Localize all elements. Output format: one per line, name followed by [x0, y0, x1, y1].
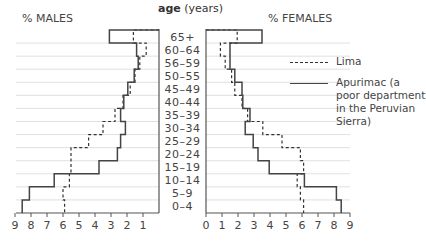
- age-group-label: 15–19: [165, 161, 201, 174]
- legend-item-apurimac: Apurimac (a poor department in the Peruv…: [290, 76, 426, 128]
- x-tick-label: 8: [331, 219, 338, 232]
- age-group-label: 60–64: [165, 44, 201, 57]
- x-tick-label: 4: [267, 219, 274, 232]
- legend: Lima Apurimac (a poor department in the …: [290, 55, 426, 136]
- age-group-label: 0–4: [172, 200, 193, 213]
- x-tick-label: 7: [315, 219, 322, 232]
- x-tick-label: 6: [60, 219, 67, 232]
- age-group-label: 25–29: [165, 135, 201, 148]
- age-group-label: 20–24: [165, 148, 201, 161]
- age-axis-title-bold: age: [158, 2, 181, 15]
- age-group-label: 30–34: [165, 122, 201, 135]
- x-tick-label: 3: [108, 219, 115, 232]
- age-group-label: 35–39: [165, 109, 201, 122]
- dashed-line-icon: [290, 55, 328, 63]
- x-tick-label: 2: [235, 219, 242, 232]
- females-axis-title: % FEMALES: [268, 12, 332, 25]
- solid-line-icon: [290, 76, 328, 84]
- legend-item-lima: Lima: [290, 55, 426, 68]
- x-tick-label: 9: [347, 219, 354, 232]
- age-group-label: 65+: [170, 31, 195, 44]
- x-tick-label: 6: [299, 219, 306, 232]
- x-tick-label: 1: [219, 219, 226, 232]
- x-tick-label: 8: [28, 219, 35, 232]
- age-group-label: 45–49: [165, 83, 201, 96]
- x-tick-label: 3: [251, 219, 258, 232]
- legend-label: Lima: [336, 55, 426, 68]
- age-group-label: 50–55: [165, 70, 201, 83]
- age-group-label: 40–44: [165, 96, 201, 109]
- x-tick-label: 0: [203, 219, 210, 232]
- x-tick-label: 5: [76, 219, 83, 232]
- x-tick-label: 4: [92, 219, 99, 232]
- age-axis-title-unit: (years): [181, 2, 223, 15]
- age-group-label: 56–59: [165, 57, 201, 70]
- x-tick-label: 7: [44, 219, 51, 232]
- legend-label: Apurimac (a poor department in the Peruv…: [336, 76, 426, 128]
- x-tick-label: 9: [12, 219, 19, 232]
- x-tick-label: 5: [283, 219, 290, 232]
- age-group-label: 10–14: [165, 174, 201, 187]
- x-tick-label: 1: [140, 219, 147, 232]
- age-group-label: 5–9: [172, 187, 193, 200]
- x-tick-label: 2: [124, 219, 131, 232]
- age-axis-title: age (years): [158, 2, 223, 15]
- males-axis-title: % MALES: [22, 12, 73, 25]
